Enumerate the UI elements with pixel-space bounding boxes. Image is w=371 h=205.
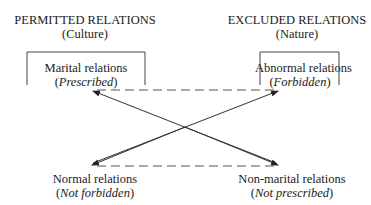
right-header-title: EXCLUDED RELATIONS — [222, 13, 371, 27]
right-header-subtitle: (Nature) — [222, 27, 371, 41]
left-header-subtitle: (Culture) — [10, 27, 160, 41]
node-non-marital-relations: Non-marital relations (Not prescribed) — [222, 172, 362, 200]
node-label: Normal relations — [35, 172, 155, 186]
arrow-to-non-marital — [185, 127, 278, 165]
right-header: EXCLUDED RELATIONS (Nature) — [222, 13, 371, 41]
node-marital-relations: Marital relations (Prescribed) — [27, 61, 145, 89]
node-sublabel: (Forbidden) — [255, 75, 345, 89]
left-header-title: PERMITTED RELATIONS — [10, 13, 160, 27]
node-sublabel: (Not prescribed) — [222, 186, 362, 200]
node-sublabel: (Prescribed) — [27, 75, 145, 89]
node-label: Marital relations — [27, 61, 145, 75]
node-label: Non-marital relations — [222, 172, 362, 186]
node-abnormal-relations: Abnormal relations (Forbidden) — [255, 61, 345, 89]
node-sublabel: (Not forbidden) — [35, 186, 155, 200]
left-header: PERMITTED RELATIONS (Culture) — [10, 13, 160, 41]
node-normal-relations: Normal relations (Not forbidden) — [35, 172, 155, 200]
arrow-to-normal — [92, 127, 185, 165]
node-label: Abnormal relations — [255, 61, 345, 75]
